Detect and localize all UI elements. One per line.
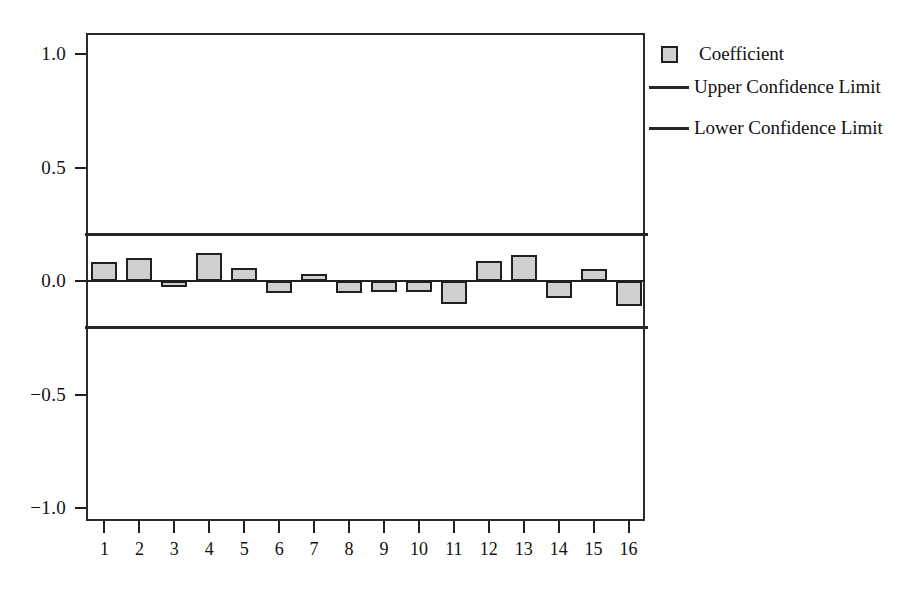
x-axis-tick bbox=[173, 521, 175, 533]
bar-coefficient bbox=[161, 281, 187, 287]
x-axis-tick bbox=[523, 521, 525, 533]
y-axis-tick-label: 0.5 bbox=[0, 158, 66, 177]
bar-coefficient bbox=[336, 281, 362, 293]
bar-coefficient bbox=[266, 281, 292, 293]
legend-item: Coefficient bbox=[655, 42, 784, 66]
x-axis-tick bbox=[348, 521, 350, 533]
y-axis-tick-label: 1.0 bbox=[0, 44, 66, 63]
x-axis-tick bbox=[208, 521, 210, 533]
x-axis-tick bbox=[103, 521, 105, 533]
x-axis-tick bbox=[418, 521, 420, 533]
upper-confidence-limit-line bbox=[85, 233, 647, 236]
y-axis-tick bbox=[75, 167, 86, 169]
bar-coefficient bbox=[441, 281, 467, 304]
legend-swatch-box-icon bbox=[661, 46, 678, 63]
x-axis-tick-label: 16 bbox=[609, 539, 649, 559]
legend-swatch-line-icon bbox=[649, 127, 689, 130]
bar-coefficient bbox=[546, 281, 572, 298]
y-axis-tick-label: −1.0 bbox=[0, 498, 66, 517]
y-axis-tick-label: −0.5 bbox=[0, 385, 66, 404]
x-axis-tick bbox=[593, 521, 595, 533]
bar-coefficient bbox=[511, 255, 537, 281]
bar-coefficient bbox=[301, 274, 327, 281]
y-axis-tick bbox=[75, 280, 86, 282]
legend-item: Upper Confidence Limit bbox=[655, 75, 881, 99]
bar-coefficient bbox=[616, 281, 642, 306]
x-axis-tick bbox=[383, 521, 385, 533]
bar-coefficient bbox=[581, 269, 607, 281]
x-axis-tick bbox=[488, 521, 490, 533]
x-axis-tick bbox=[453, 521, 455, 533]
x-axis-tick bbox=[313, 521, 315, 533]
y-axis-tick-label: 0.0 bbox=[0, 271, 66, 290]
bar-coefficient bbox=[406, 281, 432, 292]
x-axis-tick bbox=[138, 521, 140, 533]
x-axis-tick bbox=[243, 521, 245, 533]
legend-swatch-line-icon bbox=[649, 86, 689, 89]
legend-label: Coefficient bbox=[699, 43, 784, 65]
x-axis-tick bbox=[628, 521, 630, 533]
x-axis-tick bbox=[558, 521, 560, 533]
bar-coefficient bbox=[476, 261, 502, 281]
bar-coefficient bbox=[126, 258, 152, 281]
autocorrelation-coefficient-chart: 1.00.50.0−0.5−1.0 1234567891011121314151… bbox=[0, 0, 904, 598]
legend-item: Lower Confidence Limit bbox=[655, 116, 883, 140]
y-axis-tick bbox=[75, 53, 86, 55]
lower-confidence-limit-line bbox=[85, 326, 647, 329]
y-axis-tick bbox=[75, 507, 86, 509]
bar-coefficient bbox=[91, 262, 117, 281]
bar-coefficient bbox=[231, 268, 257, 281]
bar-coefficient bbox=[196, 253, 222, 281]
plot-area-frame bbox=[86, 33, 645, 521]
bar-coefficient bbox=[371, 281, 397, 292]
y-axis-tick bbox=[75, 394, 86, 396]
legend-label: Lower Confidence Limit bbox=[694, 117, 883, 139]
x-axis-tick bbox=[278, 521, 280, 533]
legend-label: Upper Confidence Limit bbox=[694, 76, 881, 98]
